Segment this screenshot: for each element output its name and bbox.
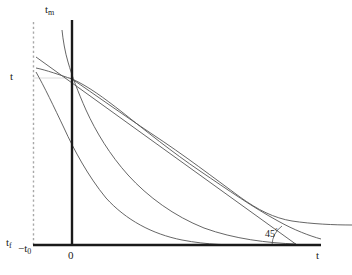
label-t-m: tm <box>45 4 54 15</box>
label-origin: 0 <box>68 250 74 261</box>
upper-envelope-curve <box>72 79 352 225</box>
label-t-level: t <box>10 71 13 82</box>
label-t-f: tf <box>6 237 12 248</box>
plot-area <box>0 0 352 275</box>
steep-decay-curve <box>62 30 296 244</box>
label-minus-t0: −t0 <box>18 243 31 254</box>
label-t-axis: t <box>316 250 319 261</box>
figure-canvas: tm t tf −t0 0 t 45° <box>0 0 352 275</box>
label-angle-45: 45° <box>265 228 278 239</box>
lower-decay-curve <box>36 72 250 245</box>
